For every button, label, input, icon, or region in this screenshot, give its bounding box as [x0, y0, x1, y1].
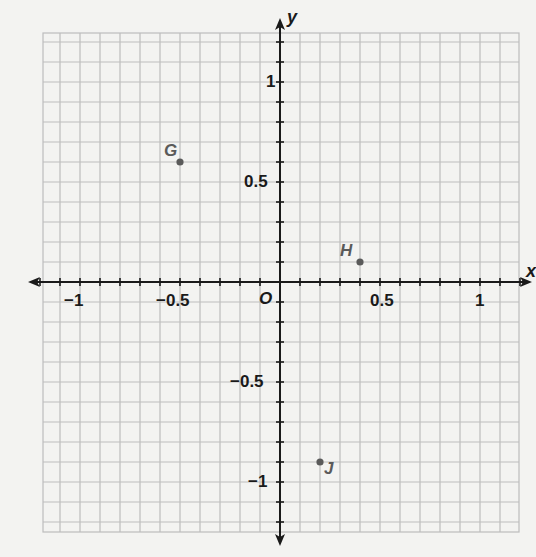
y-tick-label: 0.5: [244, 173, 268, 190]
y-tick-label: −1: [248, 473, 267, 490]
x-axis-label: x: [526, 262, 536, 280]
point-j: [316, 458, 323, 465]
x-tick-label: 0.5: [370, 292, 394, 309]
axes: [28, 18, 532, 546]
y-tick-label: −0.5: [230, 373, 264, 390]
point-g: [176, 158, 183, 165]
data-points: [176, 158, 363, 465]
point-label-h: H: [340, 242, 352, 259]
x-tick-label: −0.5: [156, 292, 190, 309]
point-label-j: J: [324, 460, 333, 477]
x-tick-label: −1: [64, 292, 83, 309]
y-tick-label: 1: [266, 73, 275, 90]
x-tick-label: 1: [475, 292, 484, 309]
y-axis-label: y: [287, 8, 297, 26]
point-h: [356, 258, 363, 265]
origin-label: O: [259, 290, 272, 307]
point-label-g: G: [164, 142, 177, 159]
